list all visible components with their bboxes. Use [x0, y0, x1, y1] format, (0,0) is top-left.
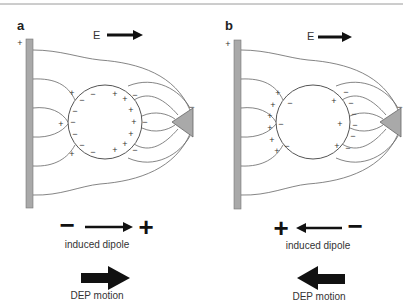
svg-text:+: +	[112, 145, 117, 155]
tip-charge-b: −	[397, 102, 402, 112]
svg-text:+: +	[334, 141, 339, 151]
svg-text:+: +	[274, 146, 279, 156]
svg-text:−: −	[142, 117, 147, 127]
svg-text:−: −	[132, 145, 137, 155]
svg-text:+: +	[122, 139, 127, 149]
svg-text:−: −	[345, 143, 350, 153]
field-arrow-b	[318, 32, 352, 42]
motion-caption-a: DEP motion	[70, 290, 123, 301]
svg-text:−: −	[350, 131, 355, 141]
dipole-caption-a: induced dipole	[65, 239, 130, 250]
svg-text:+: +	[69, 88, 74, 98]
dep-motion-arrow-b	[297, 266, 345, 290]
motion-caption-b: DEP motion	[292, 291, 345, 302]
field-label-b: E	[307, 30, 314, 42]
electrode-charge-b: +	[225, 39, 230, 49]
svg-text:−: −	[90, 89, 95, 99]
svg-text:−: −	[79, 140, 84, 150]
svg-text:+: +	[131, 117, 136, 127]
tip-charge-a: −	[189, 102, 194, 112]
dipole-caption-b: induced dipole	[286, 240, 351, 251]
field-label-a: E	[93, 29, 100, 41]
svg-text:−: −	[278, 119, 283, 129]
planar-electrode-b	[234, 40, 241, 209]
svg-text:−: −	[348, 98, 353, 108]
svg-text:+: +	[337, 119, 342, 129]
svg-text:+: +	[58, 119, 63, 129]
electrode-charge-a: +	[17, 38, 22, 48]
svg-text:+: +	[267, 123, 272, 133]
dipole-a: − +	[59, 210, 153, 242]
svg-text:+: +	[128, 105, 133, 115]
svg-text:−: −	[72, 106, 77, 116]
svg-text:+: +	[275, 88, 280, 98]
planar-electrode-a	[26, 39, 33, 208]
svg-text:−: −	[132, 90, 137, 100]
svg-text:+: +	[128, 129, 133, 139]
svg-text:−: −	[70, 117, 75, 127]
dipole-b: + −	[273, 211, 362, 243]
dipole-left-sign-b: +	[273, 213, 288, 243]
svg-text:−: −	[72, 129, 77, 139]
dipole-left-sign-a: −	[59, 210, 74, 240]
svg-text:+: +	[122, 94, 127, 104]
svg-text:+: +	[331, 96, 336, 106]
svg-text:+: +	[112, 89, 117, 99]
svg-text:−: −	[284, 141, 289, 151]
svg-text:+: +	[270, 100, 275, 110]
dep-motion-arrow-a	[81, 266, 130, 290]
svg-text:−: −	[287, 98, 292, 108]
svg-text:−: −	[343, 87, 348, 97]
dipole-right-sign-b: −	[347, 211, 362, 241]
panel-label-a: a	[17, 18, 25, 33]
panel-a: + − −−− −−−− +++ ++++ +++ −−− a E − + in…	[17, 18, 195, 301]
svg-text:+: +	[69, 149, 74, 159]
field-arrow-a	[107, 30, 143, 40]
svg-text:+: +	[269, 135, 274, 145]
panel-label-b: b	[225, 18, 233, 33]
dipole-right-sign-a: +	[138, 212, 153, 242]
svg-text:−: −	[79, 95, 84, 105]
svg-text:−: −	[352, 120, 357, 130]
panel-b: + − −−− +++ +++ +++ −−− −−− b E + − indu…	[225, 18, 403, 302]
svg-text:−: −	[90, 147, 95, 157]
svg-text:+: +	[267, 111, 272, 121]
dep-figure: + − −−− −−−− +++ ++++ +++ −−− a E − + in…	[0, 0, 416, 302]
svg-text:−: −	[351, 109, 356, 119]
